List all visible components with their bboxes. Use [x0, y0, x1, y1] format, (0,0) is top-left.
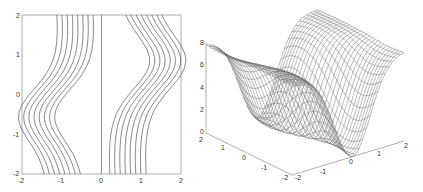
- floor-tick-a: 0: [242, 154, 246, 161]
- x-tick: 0: [99, 177, 103, 184]
- floor-tick-a: 2: [199, 136, 203, 143]
- contour-line: [125, 15, 165, 174]
- contour-line: [110, 15, 150, 174]
- y-tick: 2: [16, 12, 20, 19]
- y-tick: 0: [16, 91, 20, 98]
- z-tick: 6: [200, 61, 204, 68]
- contour-plot: 2 1 0 -1 -2 -2 -1 0 1 2: [13, 12, 186, 184]
- mesh-line: [299, 21, 385, 75]
- contour-line: [115, 15, 155, 174]
- figure: 2 1 0 -1 -2 -2 -1 0 1 2 8 6 4 2 0 2 1 0 …: [0, 0, 423, 192]
- right-floor-axis: [292, 141, 404, 175]
- contour-line: [146, 15, 186, 174]
- z-tick: 8: [200, 39, 204, 46]
- contour-lines-right: [110, 15, 186, 174]
- y-tick: -1: [13, 131, 19, 138]
- x-tick: 1: [139, 177, 143, 184]
- mesh-line: [289, 52, 401, 155]
- floor-tick-b: 0: [349, 158, 353, 165]
- z-tick: 0: [200, 128, 204, 135]
- floor-tick-a: 1: [221, 144, 225, 151]
- surface-mesh: [206, 10, 404, 157]
- y-tick: -2: [13, 170, 19, 177]
- contour-line: [141, 15, 181, 174]
- floor-tick-a: -2: [282, 174, 288, 181]
- floor-tick-b: -1: [320, 168, 326, 175]
- left-floor-axis: [206, 133, 292, 175]
- x-tick: -2: [18, 177, 24, 184]
- floor-tick-b: -2: [295, 174, 301, 181]
- contour-line: [135, 15, 175, 174]
- contour-line: [120, 15, 160, 174]
- surface-plot: 8 6 4 2 0 2 1 0 -1 -2 -2 -1 0 1 2: [199, 10, 408, 181]
- x-tick: 2: [179, 177, 183, 184]
- z-tick: 4: [200, 84, 204, 91]
- contour-line: [130, 15, 170, 174]
- y-tick: 1: [16, 51, 20, 58]
- x-tick: -1: [58, 177, 64, 184]
- contour-lines-left: [19, 15, 94, 174]
- floor-tick-b: 1: [377, 150, 381, 157]
- floor-tick-a: -1: [261, 164, 267, 171]
- mesh-line: [206, 10, 318, 117]
- z-tick: 2: [200, 106, 204, 113]
- floor-tick-b: 2: [404, 142, 408, 149]
- mesh-line: [311, 13, 397, 58]
- contour-line: [19, 15, 58, 174]
- mesh-line: [246, 30, 358, 137]
